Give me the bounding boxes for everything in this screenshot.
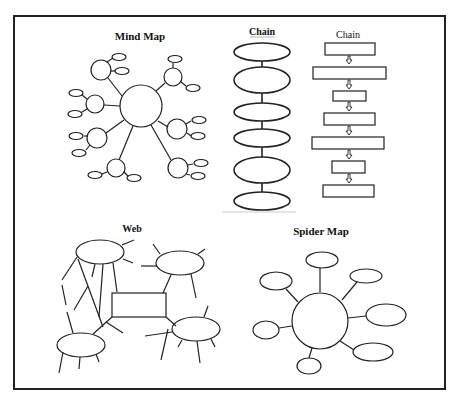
spider-map-title: Spider Map (293, 225, 349, 237)
mind-map-title: Mind Map (115, 30, 165, 42)
web-diagram: Web (57, 223, 220, 373)
web-title: Web (122, 223, 142, 234)
spider-map-diagram: Spider Map (253, 225, 406, 374)
chain-boxes-diagram: Chain (312, 29, 386, 197)
graphic-organizers-figure: Mind Map Chain (0, 0, 456, 400)
chain-ovals-title: Chain (249, 26, 276, 37)
mind-map-diagram: Mind Map (68, 30, 208, 182)
chain-boxes-title: Chain (336, 29, 360, 40)
chain-ovals-diagram: Chain (222, 26, 296, 212)
